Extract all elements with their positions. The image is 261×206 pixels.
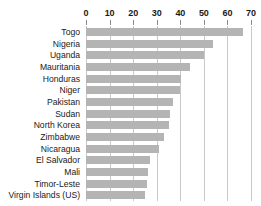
category-label: El Salvador	[36, 155, 80, 165]
x-axis-tick-mark	[251, 20, 252, 25]
bar	[86, 133, 164, 141]
x-axis-tick-mark	[204, 20, 205, 25]
bar	[86, 40, 213, 48]
category-label: Zimbabwe	[40, 132, 80, 142]
category-label: Nicaragua	[41, 144, 80, 154]
x-axis-tick-mark	[157, 20, 158, 25]
x-axis-tick-mark	[110, 20, 111, 25]
category-label: Togo	[61, 27, 80, 37]
bar	[86, 180, 147, 188]
bar	[86, 156, 150, 164]
category-label: Uganda	[50, 50, 80, 60]
bar-chart: 010203040506070 TogoNigeriaUgandaMaurita…	[0, 0, 261, 206]
x-axis-tick-label: 10	[105, 8, 115, 18]
category-label: Mali	[64, 167, 80, 177]
category-label: Timor-Leste	[34, 179, 80, 189]
category-label: Virgin Islands (US)	[9, 190, 80, 200]
x-axis-tick-label: 60	[223, 8, 233, 18]
bar	[86, 98, 173, 106]
x-axis-tick-label: 30	[152, 8, 162, 18]
category-label: Pakistan	[47, 97, 80, 107]
category-axis-labels: TogoNigeriaUgandaMauritaniaHondurasNiger…	[0, 26, 83, 201]
bar	[86, 28, 243, 36]
category-label: Mauritania	[40, 62, 80, 72]
plot-area	[86, 26, 251, 201]
x-axis-tick-label: 50	[199, 8, 209, 18]
category-label: North Korea	[34, 120, 80, 130]
bar	[86, 191, 145, 199]
gridline	[251, 26, 252, 201]
bar	[86, 75, 181, 83]
x-axis-tick-mark	[227, 20, 228, 25]
bar	[86, 168, 148, 176]
bars-layer	[86, 26, 251, 201]
x-axis-tick-label: 40	[175, 8, 185, 18]
bar	[86, 63, 190, 71]
bar	[86, 86, 180, 94]
bar	[86, 121, 169, 129]
x-axis-tick-mark	[133, 20, 134, 25]
x-axis-tick-label: 0	[84, 8, 89, 18]
x-axis: 010203040506070	[0, 0, 261, 26]
x-axis-tick-mark	[180, 20, 181, 25]
x-axis-tick-label: 70	[246, 8, 256, 18]
category-label: Nigeria	[53, 39, 80, 49]
bar	[86, 110, 170, 118]
bar	[86, 145, 159, 153]
category-label: Sudan	[55, 109, 80, 119]
x-axis-tick-label: 20	[128, 8, 138, 18]
x-axis-tick-mark	[86, 20, 87, 25]
category-label: Honduras	[43, 74, 80, 84]
category-label: Niger	[59, 85, 80, 95]
bar	[86, 51, 204, 59]
